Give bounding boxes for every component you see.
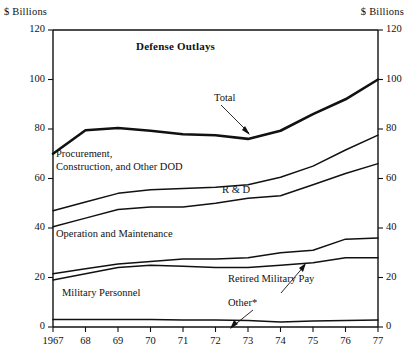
y-tick-left-100: 100 [19,73,45,84]
defense-outlays-chart: $ Billions $ Billions Defense Outlays 00… [0,0,408,357]
series-label-rd: R & D [222,184,250,197]
annotation-leader-lines [221,105,306,329]
series-line-other [53,320,378,322]
y-tick-left-20: 20 [19,271,45,282]
series-label-procurement-line2: Construction, and Other DOD [56,161,183,174]
y-tick-right-100: 100 [386,73,408,84]
y-tick-right-120: 120 [386,23,408,34]
x-tick-71: 71 [178,335,189,346]
y-tick-left-40: 40 [19,221,45,232]
series-label-total: Total [214,92,235,105]
y-tick-left-60: 60 [19,172,45,183]
x-tick-68: 68 [80,335,91,346]
x-tick-75: 75 [308,335,319,346]
series-label-procurement-line1: Procurement, [56,148,112,161]
series-label-operation-and-maintenance: Operation and Maintenance [56,228,173,241]
x-tick-76: 76 [340,335,351,346]
series-line-total [53,80,378,154]
y-tick-right-60: 60 [386,172,408,183]
y-tick-right-20: 20 [386,271,408,282]
plot-area [0,0,408,357]
y-tick-left-80: 80 [19,122,45,133]
series-label-military-personnel: Military Personnel [62,287,140,300]
y-tick-right-40: 40 [386,221,408,232]
x-tick-70: 70 [145,335,156,346]
x-tick-77: 77 [373,335,384,346]
y-tick-right-80: 80 [386,122,408,133]
y-tick-right-0: 0 [386,320,408,331]
series-label-other: Other* [228,297,257,310]
series-label-retired-military-pay: Retired Military Pay [228,273,314,286]
series-lines [53,80,378,323]
y-tick-left-0: 0 [19,320,45,331]
x-tick-74: 74 [275,335,286,346]
y-tick-left-120: 120 [19,23,45,34]
series-line-operation-and-maintenance [53,238,378,274]
x-tick-72: 72 [210,335,221,346]
x-tick-1967: 1967 [43,335,64,346]
x-tick-69: 69 [113,335,124,346]
series-line-retired-military-pay [53,258,378,280]
x-tick-73: 73 [243,335,254,346]
